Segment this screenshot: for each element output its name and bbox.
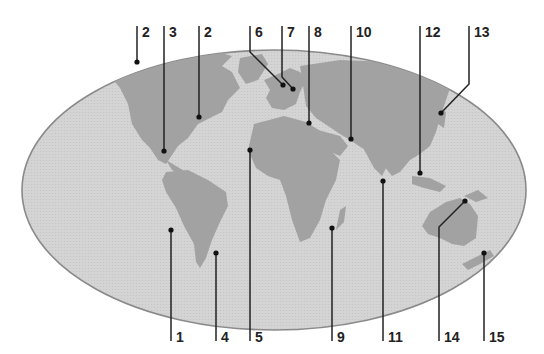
- label-top-2a: 2: [142, 25, 150, 39]
- label-top-6: 6: [255, 25, 263, 39]
- label-bottom-1: 1: [176, 330, 184, 344]
- label-bottom-15: 15: [489, 330, 505, 344]
- label-bottom-5: 5: [255, 330, 263, 344]
- label-top-12: 12: [425, 25, 441, 39]
- label-top-2b: 2: [204, 25, 212, 39]
- world-map: [0, 0, 544, 354]
- label-top-7: 7: [287, 25, 295, 39]
- label-top-13: 13: [474, 25, 490, 39]
- label-top-8: 8: [314, 25, 322, 39]
- land-british-isles: [270, 84, 276, 96]
- label-top-10: 10: [356, 25, 372, 39]
- label-bottom-14: 14: [444, 330, 460, 344]
- label-bottom-4: 4: [221, 330, 229, 344]
- label-top-3: 3: [169, 25, 177, 39]
- label-bottom-9: 9: [337, 330, 345, 344]
- label-bottom-11: 11: [388, 330, 403, 344]
